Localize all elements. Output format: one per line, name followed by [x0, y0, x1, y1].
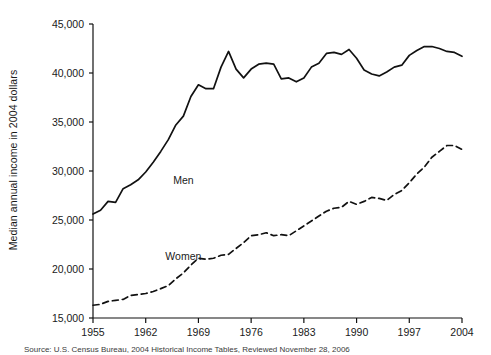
y-tick-label: 15,000	[52, 312, 84, 324]
x-tick-label: 1983	[292, 326, 316, 338]
y-tick-label: 20,000	[52, 263, 84, 275]
y-axis-ticks: 15,00020,00025,00030,00035,00040,00045,0…	[52, 18, 93, 324]
series-label-men: Men	[173, 174, 194, 186]
y-tick-label: 25,000	[52, 214, 84, 226]
x-tick-label: 1969	[187, 326, 211, 338]
x-tick-label: 1976	[239, 326, 263, 338]
series-line-men	[93, 47, 462, 215]
x-axis-ticks: 19551962196919761983199019972004	[81, 318, 474, 338]
y-tick-label: 40,000	[52, 67, 84, 79]
x-tick-label: 2004	[450, 326, 474, 338]
chart-figure: Median annual income in 2004 dollars 15,…	[0, 0, 491, 355]
x-tick-label: 1997	[398, 326, 422, 338]
x-tick-label: 1955	[81, 326, 105, 338]
x-tick-label: 1990	[345, 326, 369, 338]
series-label-women: Women	[165, 250, 201, 262]
source-note: Source: U.S. Census Bureau, 2004 Histori…	[24, 345, 484, 354]
chart-plot-area: 15,00020,00025,00030,00035,00040,00045,0…	[0, 0, 491, 340]
y-tick-label: 30,000	[52, 165, 84, 177]
y-tick-label: 35,000	[52, 116, 84, 128]
x-tick-label: 1962	[134, 326, 158, 338]
y-tick-label: 45,000	[52, 18, 84, 30]
